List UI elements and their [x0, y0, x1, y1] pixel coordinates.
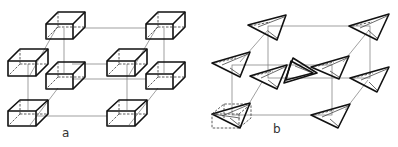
box-top-left	[46, 12, 85, 39]
triangle-mid-right	[350, 67, 389, 92]
box-mid-right	[146, 62, 185, 89]
triangle-center-tilted	[284, 58, 317, 83]
panel-b-label: b	[273, 122, 281, 136]
panel-b	[212, 14, 389, 128]
diagram-canvas	[0, 0, 398, 147]
box-mid-center-left	[46, 62, 85, 89]
triangle-mid-center-right	[311, 56, 349, 79]
triangle-top-left	[248, 15, 286, 40]
triangle-top-right	[349, 14, 389, 40]
triangle-mid-left	[212, 52, 250, 77]
panel-a	[8, 12, 185, 126]
panel-a-label: a	[62, 126, 69, 140]
box-top-right	[146, 12, 185, 39]
triangle-mid-center-left	[250, 65, 287, 89]
triangle-bottom-right	[311, 104, 350, 128]
panel-b-cell-lines	[232, 26, 370, 115]
triangle-bottom-left-in-box	[212, 103, 251, 128]
